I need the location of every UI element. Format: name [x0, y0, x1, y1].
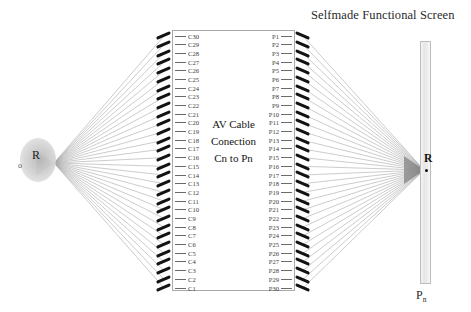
pin-lead-line	[175, 235, 186, 236]
pin-lead-line	[281, 79, 292, 80]
pin-label-text: P18	[269, 180, 279, 187]
ray-line	[54, 163, 164, 218]
pin-tick-left	[156, 231, 171, 240]
pin-label-text: P9	[272, 102, 279, 109]
pin-label-right: P2	[272, 40, 292, 49]
pin-tick-left	[156, 179, 171, 188]
ray-line	[303, 170, 424, 271]
pin-label-text: C27	[188, 59, 199, 66]
pin-lead-line	[175, 79, 186, 80]
pin-label-text: P4	[272, 59, 279, 66]
pin-tick-right	[295, 266, 310, 275]
pin-label-text: P3	[272, 50, 279, 57]
pin-lead-line	[281, 183, 292, 184]
pin-label-right: P7	[272, 84, 292, 93]
ray-line	[54, 106, 164, 163]
pin-lead-line	[175, 175, 186, 176]
pin-label-left: C3	[175, 266, 196, 275]
pin-lead-line	[281, 44, 292, 45]
pin-label-left: C14	[175, 171, 199, 180]
pin-label-left: C12	[175, 188, 199, 197]
pin-tick-left	[156, 240, 171, 249]
pin-tick-right	[295, 136, 310, 145]
pin-tick-left	[156, 40, 171, 49]
pin-label-text: P29	[269, 276, 279, 283]
pin-tick-left	[156, 101, 171, 110]
pin-tick-right	[295, 153, 310, 162]
pin-label-right: P9	[272, 101, 292, 110]
pin-label-text: P17	[269, 172, 279, 179]
pin-label-text: C14	[188, 172, 199, 179]
pin-label-text: C26	[188, 67, 199, 74]
pin-tick-right	[295, 31, 310, 40]
pin-label-text: P7	[272, 85, 279, 92]
left-pin-column	[156, 30, 172, 291]
pin-label-right: P18	[269, 179, 292, 188]
pin-lead-line	[281, 279, 292, 280]
pin-label-text: P30	[269, 285, 279, 292]
pin-label-left: C6	[175, 240, 196, 249]
pin-label-text: C24	[188, 85, 199, 92]
pin-lead-line	[175, 253, 186, 254]
pin-label-right: P3	[272, 49, 292, 58]
pin-tick-left	[156, 31, 171, 40]
pin-label-text: P21	[269, 206, 279, 213]
pin-label-left: C24	[175, 84, 199, 93]
screen-point-label: R	[424, 152, 432, 164]
pin-label-right: P4	[272, 58, 292, 67]
pin-tick-right	[295, 49, 310, 58]
pin-tick-right	[295, 197, 310, 206]
pin-lead-line	[175, 218, 186, 219]
pin-tick-right	[295, 144, 310, 153]
screen-focus-dot	[425, 169, 428, 172]
ray-line	[303, 170, 424, 262]
pin-label-left: C13	[175, 179, 199, 188]
pin-tick-left	[156, 153, 171, 162]
pin-label-text: C29	[188, 41, 199, 48]
pin-tick-right	[295, 101, 310, 110]
screen-bottom-label: Pn	[416, 288, 426, 304]
pin-lead-line	[281, 53, 292, 54]
pin-tick-right	[295, 127, 310, 136]
pin-lead-line	[175, 70, 186, 71]
pin-tick-right	[295, 231, 310, 240]
pin-lead-line	[281, 62, 292, 63]
right-pin-column	[295, 30, 311, 291]
pin-lead-line	[281, 209, 292, 210]
pin-label-right: P21	[269, 205, 292, 214]
pin-tick-right	[295, 40, 310, 49]
pin-lead-line	[281, 261, 292, 262]
pin-tick-left	[156, 171, 171, 180]
pin-lead-line	[175, 62, 186, 63]
pin-label-text: C6	[188, 241, 196, 248]
pin-label-left: C23	[175, 92, 199, 101]
pin-tick-right	[295, 118, 310, 127]
pin-tick-right	[295, 275, 310, 284]
pin-label-text: C30	[188, 33, 199, 40]
pin-lead-line	[175, 270, 186, 271]
pin-label-left: C29	[175, 40, 199, 49]
pin-label-text: C1	[188, 285, 196, 292]
pin-label-left: C10	[175, 205, 199, 214]
pin-label-text: C2	[188, 276, 196, 283]
pin-label-right: P5	[272, 66, 292, 75]
screen-bottom-label-main: P	[416, 288, 423, 302]
pin-lead-line	[281, 105, 292, 106]
page-title: Selfmade Functional Screen	[311, 8, 455, 23]
pin-tick-right	[295, 171, 310, 180]
ray-line	[54, 123, 164, 163]
pin-tick-left	[156, 266, 171, 275]
pin-lead-line	[175, 201, 186, 202]
pin-lead-line	[281, 288, 292, 289]
pin-lead-line	[175, 44, 186, 45]
pin-label-text: C23	[188, 93, 199, 100]
pin-lead-line	[281, 88, 292, 89]
pin-tick-right	[295, 249, 310, 258]
ray-line	[54, 163, 164, 271]
pin-tick-left	[156, 127, 171, 136]
pin-label-text: P23	[269, 224, 279, 231]
pin-label-left: C25	[175, 75, 199, 84]
pin-label-text: P20	[269, 198, 279, 205]
pin-lead-line	[281, 175, 292, 176]
ray-line	[303, 62, 424, 170]
